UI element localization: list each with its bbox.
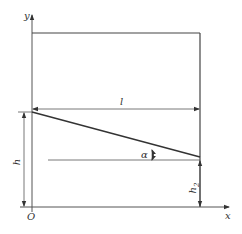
sloped-surface-line [32,112,200,157]
y-axis-label: y [23,10,30,21]
x-axis-label: x [225,210,231,221]
origin-label: O [27,211,35,222]
angle-arc [152,150,153,160]
height-label: h [11,159,22,165]
diagram-canvas: y x O l α h h2 [0,0,242,234]
height2-label: h2 [187,182,201,193]
angle-label: α [141,149,148,160]
length-label: l [120,96,123,107]
